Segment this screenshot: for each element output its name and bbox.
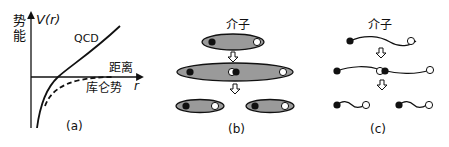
meson-string-top — [346, 37, 416, 46]
panel-c-caption: (c) — [370, 123, 386, 135]
meson-string-bottom-left — [333, 101, 369, 108]
antiquark-light — [253, 38, 260, 45]
meson-bottom-left — [176, 100, 224, 113]
coulomb-curve-label: 库仑势 — [86, 82, 122, 94]
panel-b-flux-tube: 介子 (b) — [150, 0, 300, 147]
meson-string-bottom-right — [395, 101, 432, 108]
meson-top — [202, 34, 264, 50]
down-arrow-icon — [228, 52, 238, 62]
meson-stretched — [177, 63, 293, 81]
qcd-curve-label: QCD — [74, 33, 99, 44]
x-axis-symbol: r — [134, 80, 139, 92]
down-arrow-icon — [230, 84, 240, 94]
y-axis-label-line1: 势 — [13, 14, 26, 27]
y-axis-label-line2: 能 — [13, 29, 26, 42]
y-axis-symbol: V(r) — [36, 13, 60, 26]
x-axis-label: 距离 — [109, 62, 133, 74]
quark-dark-created — [232, 68, 239, 75]
panel-a-potential-graph: 势 能 V(r) QCD 距离 r 库仑势 (a) — [0, 0, 150, 147]
meson-bottom-right — [246, 100, 294, 113]
flux-tube-svg — [150, 0, 300, 147]
panel-c-title: 介子 — [368, 19, 392, 31]
down-arrow-icon — [377, 80, 387, 90]
panel-a-caption: (a) — [66, 120, 83, 132]
quark-dark — [208, 38, 215, 45]
quark-dark — [186, 68, 193, 75]
panel-c-string: 介子 (c) — [300, 0, 449, 147]
panel-b-caption: (b) — [228, 123, 245, 135]
panel-b-title: 介子 — [226, 19, 250, 31]
antiquark-light — [279, 68, 286, 75]
meson-string-breaking — [333, 66, 433, 74]
down-arrow-icon — [376, 48, 386, 58]
